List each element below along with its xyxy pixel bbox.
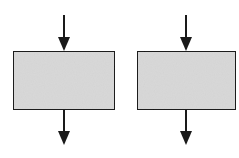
process-box-left	[13, 51, 115, 110]
process-box-right	[137, 51, 236, 110]
arrow-down-icon	[180, 37, 192, 51]
flowchart-diagram	[0, 0, 239, 158]
block-right	[137, 15, 236, 145]
block-left	[13, 15, 115, 145]
arrow-down-icon	[58, 131, 70, 145]
arrow-down-icon	[58, 37, 70, 51]
arrow-down-icon	[180, 131, 192, 145]
